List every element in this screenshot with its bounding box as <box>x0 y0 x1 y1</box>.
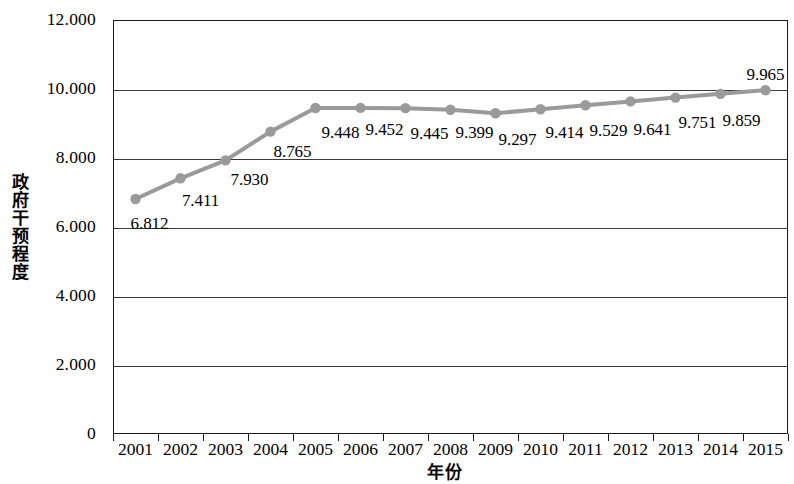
data-point-label: 9.445 <box>411 125 449 142</box>
gridline <box>114 297 787 298</box>
x-axis-tick <box>383 434 384 441</box>
x-axis-tick <box>473 434 474 441</box>
gridline <box>114 366 787 367</box>
x-axis-tick <box>338 434 339 441</box>
plot-area <box>113 20 788 434</box>
data-point-label: 9.448 <box>322 124 360 141</box>
y-axis-tick-label: 12.000 <box>47 11 96 29</box>
x-axis-tick <box>743 434 744 441</box>
x-axis-tick <box>248 434 249 441</box>
data-point-label: 6.812 <box>131 215 169 232</box>
data-point-label: 9.529 <box>590 122 628 139</box>
x-axis-tick <box>113 434 114 441</box>
data-point-label: 9.751 <box>679 114 717 131</box>
y-axis-tick-label: 0 <box>87 425 96 443</box>
y-axis-tick-label: 8.000 <box>56 149 96 167</box>
data-point-label: 9.641 <box>634 121 672 138</box>
x-axis-tick <box>203 434 204 441</box>
x-axis-tick <box>653 434 654 441</box>
data-point-label: 7.930 <box>231 171 269 188</box>
x-axis-tick-label: 2015 <box>736 441 794 459</box>
gridline <box>114 90 787 91</box>
data-point-label: 9.399 <box>456 124 494 141</box>
x-axis-tick <box>518 434 519 441</box>
x-axis-tick <box>293 434 294 441</box>
x-axis-tick <box>428 434 429 441</box>
x-axis-tick <box>698 434 699 441</box>
gridline <box>114 228 787 229</box>
data-point-label: 9.965 <box>747 66 785 83</box>
data-point-label: 9.859 <box>723 112 761 129</box>
y-axis-tick-label: 4.000 <box>56 287 96 305</box>
x-axis-title: 年份 <box>0 458 794 483</box>
y-axis-title: 政府干预程度 <box>2 173 32 281</box>
y-axis-tick-label: 6.000 <box>56 218 96 236</box>
data-point-label: 7.411 <box>182 192 219 209</box>
data-point-label: 9.297 <box>499 131 537 148</box>
x-axis-tick <box>788 434 789 441</box>
x-axis-tick <box>563 434 564 441</box>
data-point-label: 9.414 <box>546 124 584 141</box>
y-axis-tick-label: 2.000 <box>56 356 96 374</box>
gridline <box>114 159 787 160</box>
x-axis-tick <box>158 434 159 441</box>
line-chart: 12.00010.0008.0006.0004.0002.0000 政府干预程度… <box>0 0 794 484</box>
data-point-label: 8.765 <box>274 143 312 160</box>
data-point-label: 9.452 <box>366 121 404 138</box>
y-axis-tick-label: 10.000 <box>47 80 96 98</box>
x-axis-tick <box>608 434 609 441</box>
x-axis-title-text: 年份 <box>331 462 463 482</box>
